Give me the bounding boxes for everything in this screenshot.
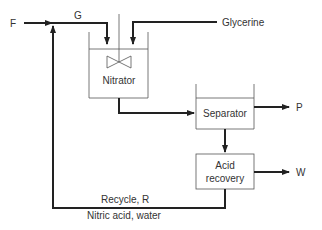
stream-nitrator-to-separator [119,98,194,113]
acid-recovery-unit: Acid recovery [196,154,254,189]
label-nitrator: Nitrator [103,75,136,86]
stream-recycle-R [53,26,225,208]
label-recycle-description: Nitric acid, water [87,210,162,221]
label-separator: Separator [203,108,248,119]
label-glycerine: Glycerine [222,17,265,28]
label-feed-F: F [10,18,16,29]
label-stream-G: G [74,10,82,21]
stream-G [52,23,107,44]
separator-unit: Separator [196,84,254,129]
label-acid-recovery-line1: Acid [215,160,234,171]
nitrator-unit: Nitrator [89,14,148,98]
label-product-P: P [296,102,303,113]
label-recycle: Recycle, R [101,194,149,205]
label-acid-recovery-line2: recovery [206,173,244,184]
stream-glycerine [133,22,217,44]
process-flow-diagram: F G Glycerine Nitrator Separator P Acid … [0,0,322,230]
label-waste-W: W [296,167,306,178]
